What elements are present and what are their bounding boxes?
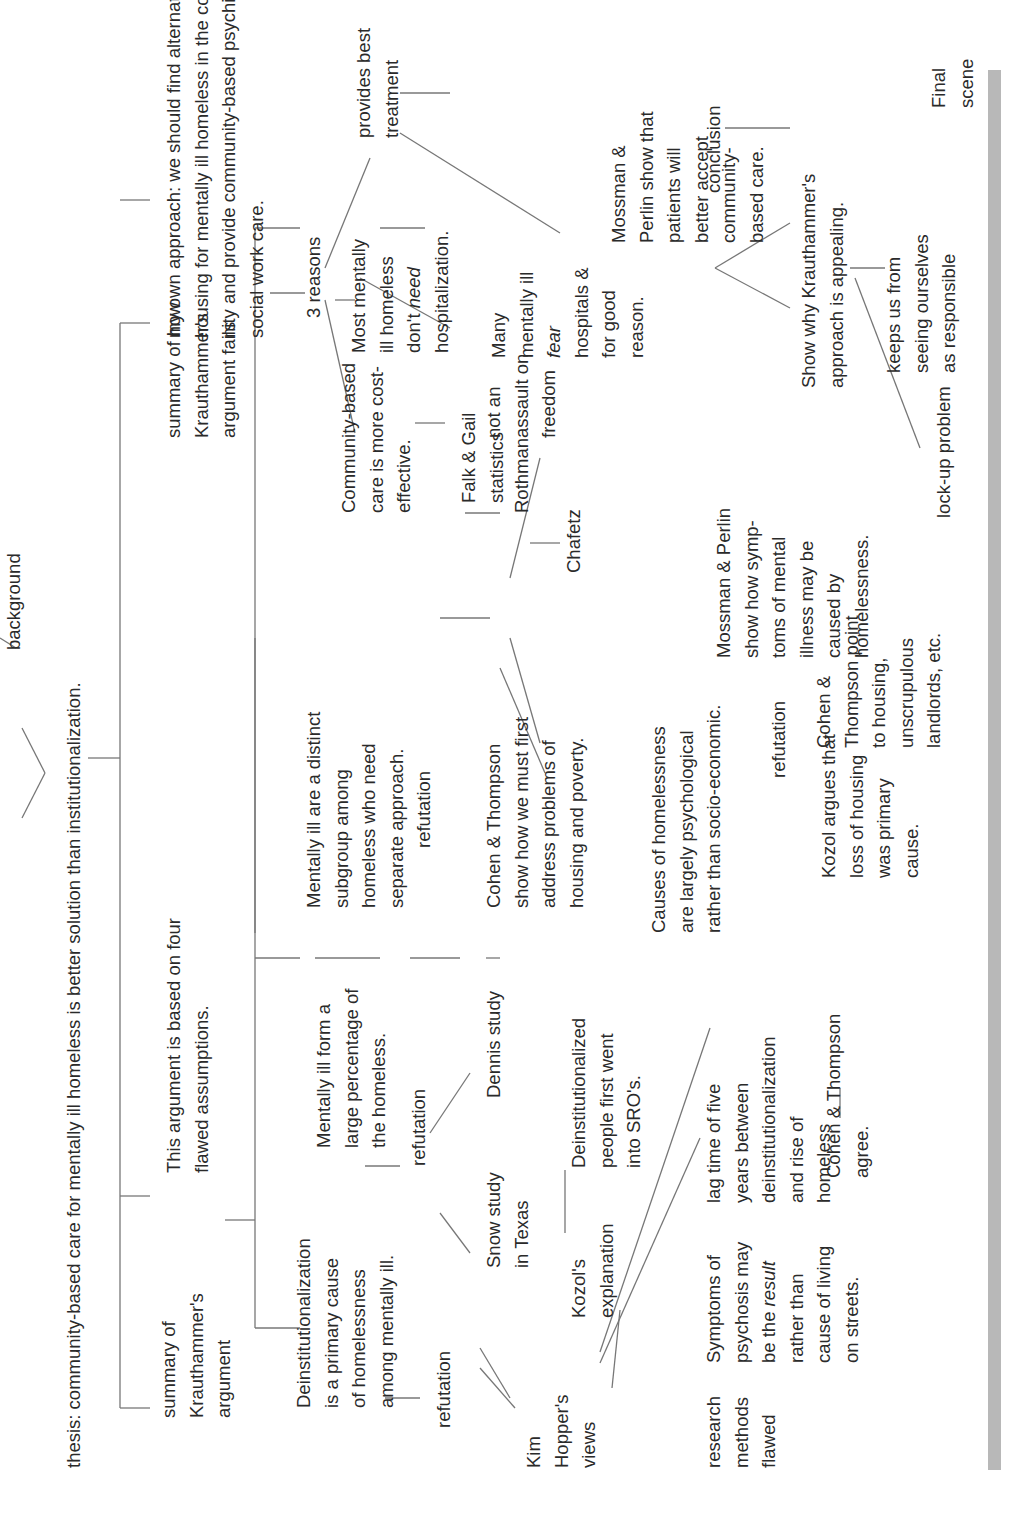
many-fear-hospitals-node: Many mentally ill fear hospitals & for g… [485,268,650,359]
cohen-housing-poverty-node: Cohen & Thompson show how we must first … [480,717,590,908]
a1-refutation-label: refutation [430,1351,458,1428]
conclusion-label: conclusion [700,106,728,193]
keeps-us-responsible-node: keeps us from seeing ourselves as respon… [880,234,963,373]
summary-node: summary of Krauthammer's argument [155,1293,238,1418]
cohen-agree-node: Cohen & Thompson agree. [820,1014,875,1178]
rothman-node: Rothman [508,438,536,513]
research-flawed-node: research methods flawed [700,1396,783,1468]
three-reasons-label: 3 reasons [300,237,328,318]
kim-hopper-node: Kim Hopper's views [520,1395,603,1468]
page-edge-bar [988,70,1001,1470]
a3-refutation-label: refutation [410,771,438,848]
final-scene-node: Final scene [925,59,980,108]
lag-time-node: lag time of five years between deinstitu… [700,1036,838,1203]
flawed-assumptions-node: This argument is based on four flawed as… [160,918,215,1173]
kozol-housing-node: Kozol argues that loss of housing was pr… [815,734,925,878]
background-node: background [0,553,28,650]
own-approach-node: my own approach: we should find alternat… [160,0,270,338]
lockup-problem-node: lock-up problem [930,386,958,518]
not-assault-freedom-node: not an assault on freedom [480,354,563,438]
argument-tree-diagram: background thesis: community-based care … [0,0,1014,1518]
deinstitutionalized-sro-node: Deinstitutionalized people first went in… [565,1018,648,1168]
reason-best-treatment-node: provides best treatment [350,28,405,138]
a2-refutation-label: refutation [405,1089,433,1166]
kozol-explanation-node: Kozol's explanation [565,1223,620,1318]
assumption-1-node: Deinstitutionalization is a primary caus… [290,1238,400,1408]
mossman-symptoms-node: Mossman & Perlin show how symp- toms of … [710,508,875,658]
chafetz-node: Chafetz [560,509,588,573]
mossman-accept-node: Mossman & Perlin show that patients will… [605,111,770,243]
show-why-appealing-node: Show why Krauthammer's approach is appea… [795,174,850,388]
dennis-study-node: Dennis study [480,991,508,1098]
snow-study-node: Snow study in Texas [480,1172,535,1268]
reason-need-node: Most mentally ill homeless don't need ho… [345,231,455,353]
assumption-4-node: Causes of homelessness are largely psych… [645,705,728,933]
a4-refutation-label: refutation [765,701,793,778]
assumption-2-node: Mentally ill form a large percentage of … [310,989,393,1148]
reason-cost-node: Community-based care is more cost- effec… [335,363,418,513]
thesis-node: thesis: community-based care for mentall… [60,682,88,1468]
symptoms-node: Symptoms of psychosis may be the result … [700,1242,865,1363]
assumption-3-node: Mentally ill are a distinct subgroup amo… [300,712,410,908]
